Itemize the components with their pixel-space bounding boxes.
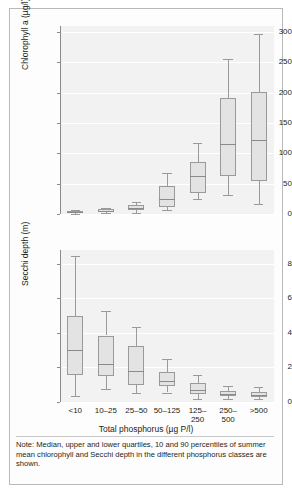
chlorophyll-y-axis-title: Chlorophyll a (µg/l)	[20, 0, 30, 70]
chlorophyll-ytick-label: 100	[240, 149, 292, 157]
secchi-ytick-label: 6	[240, 294, 292, 302]
secchi-ytick-label: 4	[240, 329, 292, 337]
secchi-depth-boxplot-chart: 02468Secchi depth (m)	[0, 238, 292, 423]
chlorophyll-ytick-label: 300	[240, 28, 292, 36]
x-tick-label-3: 25–50	[121, 406, 152, 415]
note-separator	[16, 436, 274, 437]
x-tick-label-1: <10	[60, 406, 91, 415]
secchi-y-axis-line	[60, 250, 61, 402]
chlorophyll-ytick-label: 250	[240, 58, 292, 66]
chlorophyll-ytick-label: 50	[240, 180, 292, 188]
secchi-plot-area	[60, 250, 274, 402]
chlorophyll-ytick-label: 150	[240, 119, 292, 127]
whisker-cap-upper	[254, 387, 264, 388]
x-tick-label-7: >500	[243, 406, 274, 415]
x-tick-label-2: 10–25	[91, 406, 122, 415]
box-iqr	[251, 92, 267, 181]
ytick-mark	[57, 402, 60, 403]
x-tick-label-4: 50–125	[152, 406, 183, 415]
chlorophyll-ytick-label: 200	[240, 89, 292, 97]
figure-note: Note: Median, upper and lower quartiles,…	[16, 440, 274, 469]
chlorophyll-y-axis-line	[60, 26, 61, 214]
whisker-cap-lower	[254, 204, 264, 205]
chlorophyll-ytick-label: 0	[240, 210, 292, 218]
x-tick-label-5: 125– 250	[182, 406, 213, 424]
median-line	[251, 140, 267, 141]
boxplot-secchi-7	[60, 250, 274, 402]
figure-container: 050100150200250300Chlorophyll a (µg/l) 0…	[0, 0, 292, 493]
secchi-y-axis-title: Secchi depth (m)	[20, 222, 30, 286]
x-tick-label-6: 250– 500	[213, 406, 244, 424]
ytick-mark	[57, 214, 60, 215]
x-axis-title: Total phosphorus (µg P/l)	[0, 424, 292, 434]
secchi-ytick-label: 8	[240, 260, 292, 268]
whisker-cap-lower	[71, 214, 81, 215]
chlorophyll-boxplot-chart: 050100150200250300Chlorophyll a (µg/l)	[0, 0, 292, 240]
median-line	[251, 395, 267, 396]
secchi-ytick-label: 2	[240, 363, 292, 371]
